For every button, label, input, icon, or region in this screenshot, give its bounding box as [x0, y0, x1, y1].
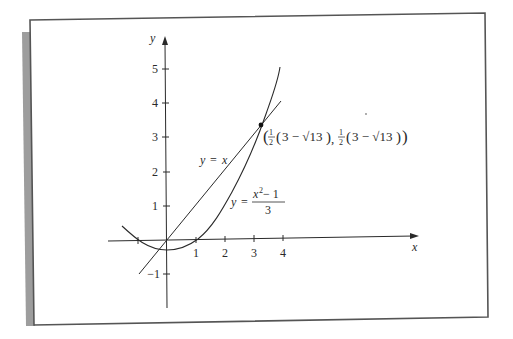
y-axis-label: y	[149, 31, 156, 45]
svg-text:y: y	[199, 153, 206, 167]
x-tick-label: 4	[280, 246, 286, 260]
x-tick-label: 2	[222, 246, 228, 260]
svg-text:x: x	[221, 153, 228, 167]
svg-text:): )	[396, 129, 401, 146]
svg-text:2: 2	[339, 138, 343, 147]
svg-text:y: y	[230, 195, 237, 209]
svg-text:,: ,	[331, 131, 334, 146]
svg-text:(: (	[276, 129, 281, 146]
y-tick-label: 3	[152, 130, 158, 144]
svg-text:=: =	[210, 153, 217, 167]
svg-text:− 1: − 1	[263, 187, 279, 201]
svg-text:2: 2	[269, 138, 273, 147]
svg-text:(: (	[346, 129, 351, 146]
y-tick-label: 2	[152, 165, 158, 179]
x-tick-label: 3	[251, 246, 257, 260]
figure-frame	[30, 13, 488, 325]
svg-text:3 − √13: 3 − √13	[352, 129, 392, 144]
svg-text:3 − √13: 3 − √13	[282, 129, 322, 144]
line-label: y = x	[199, 153, 228, 167]
svg-text:3: 3	[265, 203, 271, 217]
x-tick-label: 1	[193, 246, 199, 260]
svg-text:x: x	[252, 187, 259, 201]
y-tick-label: −1	[147, 267, 160, 281]
svg-text:1: 1	[339, 128, 343, 137]
figure-container: 1 2 3 4 −1 1 2 3 4 5 x y y = x y = x 2 −…	[0, 0, 513, 339]
chart-svg: 1 2 3 4 −1 1 2 3 4 5 x y y = x y = x 2 −…	[0, 0, 513, 339]
svg-text:): )	[402, 127, 408, 146]
x-axis-label: x	[411, 240, 418, 254]
svg-text:=: =	[241, 195, 248, 209]
speck	[365, 113, 367, 115]
y-tick-label: 4	[152, 96, 158, 110]
svg-text:1: 1	[269, 128, 273, 137]
y-tick-label: 5	[152, 62, 158, 76]
y-tick-label: 1	[152, 199, 158, 213]
